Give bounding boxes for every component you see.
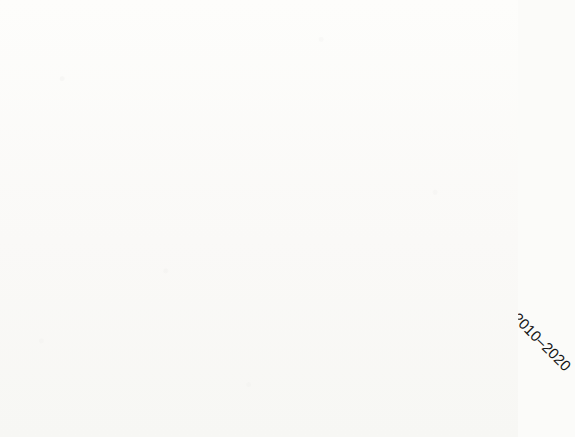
figure-caption: Figure 1. “Islam and ...” book titles by… — [0, 423, 518, 437]
x-tick-label: 1970s — [267, 262, 307, 302]
x-tick-label: 1990s — [346, 262, 386, 302]
figure-caption-clip: Figure 1. “Islam and ...” book titles by… — [0, 423, 518, 437]
x-tick-label: 1920s — [72, 262, 112, 302]
x-tick-label: 1980s — [306, 262, 346, 302]
x-tick-label: 1940s — [150, 262, 190, 302]
x-tick-label: 1950s — [189, 262, 229, 302]
x-tick-label: 1930s — [111, 262, 151, 302]
x-tick-label: 2000s — [385, 262, 425, 302]
x-tick-label: 1960s — [228, 262, 268, 302]
